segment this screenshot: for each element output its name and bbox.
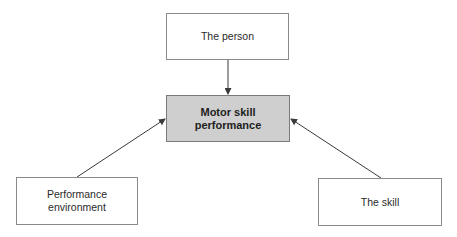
node-the-skill: The skill bbox=[318, 178, 442, 226]
node-the-person: The person bbox=[166, 13, 289, 60]
node-performance-environment: Performance environment bbox=[16, 177, 138, 225]
arrow-skill-to-center bbox=[291, 119, 381, 178]
arrow-environment-to-center bbox=[77, 119, 165, 177]
node-motor-skill-performance-label: Motor skill performance bbox=[195, 106, 262, 132]
node-the-person-label: The person bbox=[201, 30, 254, 43]
node-performance-environment-label: Performance environment bbox=[47, 188, 107, 214]
node-motor-skill-performance: Motor skill performance bbox=[166, 95, 290, 142]
node-the-skill-label: The skill bbox=[361, 196, 400, 209]
